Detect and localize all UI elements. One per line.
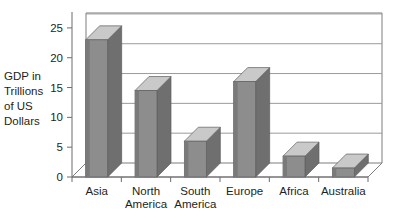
y-axis-title: GDP inTrillionsof USDollars [4,70,43,127]
gdp-bar-chart: 0510152025 AsiaNorthAmericaSouthAmericaE… [0,0,400,220]
bar-north-america [135,77,171,177]
bar-shade [234,82,238,177]
bar-series [86,26,369,177]
y-axis-title-line: of US [4,100,33,112]
bar-side-face [108,26,122,177]
y-tick-label-5: 5 [57,141,63,153]
bar-europe [234,68,270,177]
y-axis-title-line: Trillions [4,85,43,97]
y-tick-label-0: 0 [57,171,63,183]
y-tick-label-15: 15 [50,82,63,94]
y-tick-label-20: 20 [50,52,63,64]
bar-side-face [256,68,270,177]
y-tick-label-10: 10 [50,111,63,123]
chart-canvas: 0510152025 AsiaNorthAmericaSouthAmericaE… [0,0,400,220]
x-tick-label-south-america: America [174,198,217,210]
y-tick-label-25: 25 [50,22,63,34]
x-tick-label-australia: Australia [321,185,366,197]
bar-shade [135,91,139,177]
x-tick-label-africa: Africa [279,185,309,197]
x-tick-label-europe: Europe [226,185,263,197]
x-tick-label-south-america: South [180,185,210,197]
y-axis-title-line: Dollars [4,115,40,127]
y-axis-title-line: GDP in [4,70,41,82]
x-tick-label-asia: Asia [85,185,108,197]
x-tick-labels: AsiaNorthAmericaSouthAmericaEuropeAfrica… [85,185,366,210]
x-axis [72,177,368,182]
bar-asia [86,26,122,177]
bar-shade [184,141,188,177]
bar-shade [332,168,336,177]
y-tick-labels: 0510152025 [50,22,63,183]
x-tick-label-north-america: North [132,185,160,197]
bar-shade [86,40,90,177]
y-axis [67,12,72,177]
bar-shade [283,156,287,177]
x-tick-label-north-america: America [125,198,168,210]
bar-side-face [157,77,171,177]
